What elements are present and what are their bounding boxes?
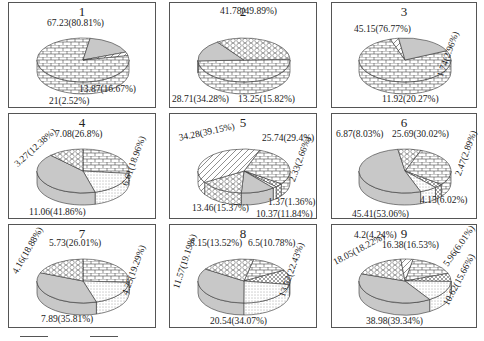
slice-label: 38.98(39.34%) xyxy=(366,317,423,327)
pie-chart-panel-1: 1 67.23(80.81%)13.87(16.67%)21(2.52%) xyxy=(8,2,156,108)
slice-label: 13.87(16.67%) xyxy=(79,85,136,95)
slice-label: 13.25(15.82%) xyxy=(238,95,295,105)
slice-label: 13.46(15.37%) xyxy=(192,204,249,214)
slice-label: 11.92(20.27%) xyxy=(382,95,439,105)
pie-chart-panel-6: 6 25.69(30.02%)2.47(2.89%)4.15(6.02%)45.… xyxy=(331,113,477,219)
pie-chart-panel-2: 2 41.78(49.89%)13.25(15.82%)28.71(34.28%… xyxy=(169,2,317,108)
pie-chart-panel-7: 7 5.73(26.01%)4.25(19.29%)7.89(35.81%)4.… xyxy=(8,224,156,328)
slice-label: 4.15(6.02%) xyxy=(420,196,468,206)
slice-label: 45.41(53.06%) xyxy=(352,210,409,220)
slice-label: 5.73(26.01%) xyxy=(49,239,101,249)
slice-label: 8.15(13.52%) xyxy=(190,239,242,249)
slice-label: 4.2(4.24%) xyxy=(354,231,397,241)
slice-label: 20.54(34.07%) xyxy=(210,317,267,327)
slice-label: 6.87(8.03%) xyxy=(336,130,384,140)
legend-swatch xyxy=(90,336,118,341)
slice-label: 7.08(26.8%) xyxy=(55,130,103,140)
slice-label: 41.78(49.89%) xyxy=(220,7,277,17)
slice-label: 7.89(35.81%) xyxy=(41,315,93,325)
legend-swatch xyxy=(20,336,48,341)
slice-label: 25.69(30.02%) xyxy=(392,130,449,140)
slice-label: 21(2.52%) xyxy=(49,97,89,107)
slice-label: 6.5(10.78%) xyxy=(248,239,296,249)
slice-label: 28.71(34.28%) xyxy=(172,95,229,105)
legend-partial xyxy=(20,336,220,341)
slice-label: 45.15(76.77%) xyxy=(354,25,411,35)
slice-label: 11.06(41.86%) xyxy=(29,208,86,218)
pie-chart-panel-4: 4 7.08(26.8%)6.61(18.96%)11.06(41.86%)3.… xyxy=(8,113,156,219)
pie-chart-panel-9: 9 16.38(16.53%)5.96(6.01%)10.62(15.66%)3… xyxy=(331,224,477,328)
pie-chart-panel-3: 3 45.15(76.77%)1.74(2.96%)11.92(20.27%) xyxy=(331,2,477,108)
pie-chart-panel-8: 8 8.15(13.52%)6.5(10.78%)13.52(22.43%)20… xyxy=(169,224,317,328)
slice-label: 67.23(80.81%) xyxy=(47,19,104,29)
pie-chart-panel-5: 5 25.74(29.4%)2.33(2.66%)1.37(1.36%)10.3… xyxy=(169,113,317,219)
slice-label: 10.37(11.84%) xyxy=(256,210,313,220)
slice-label: 16.38(16.53%) xyxy=(382,241,439,251)
slice-label: 1.37(1.36%) xyxy=(268,198,316,208)
